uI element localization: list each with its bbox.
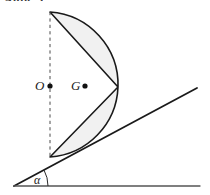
geometry-figure: Aufg. 5 O G α bbox=[0, 0, 210, 195]
angle-arc bbox=[44, 170, 48, 186]
angle-label-alpha: α bbox=[34, 174, 40, 186]
center-point-label: O bbox=[35, 79, 44, 92]
centroid-point-label: G bbox=[71, 79, 80, 92]
figure-canvas bbox=[0, 0, 210, 195]
centroid-point-dot bbox=[82, 83, 87, 88]
center-point-dot bbox=[47, 83, 52, 88]
